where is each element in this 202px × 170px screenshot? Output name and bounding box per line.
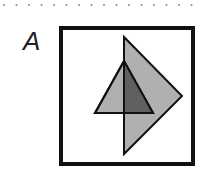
figure-diagram bbox=[0, 0, 202, 170]
